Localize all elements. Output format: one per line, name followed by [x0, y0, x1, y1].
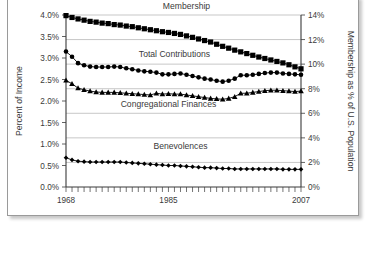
data-point-diamond: [184, 164, 189, 169]
y-axis-right-tick-label: 2%: [308, 158, 320, 167]
data-point-square: [63, 13, 68, 18]
data-point-circle: [238, 73, 243, 78]
data-point-diamond: [244, 167, 249, 172]
data-point-square: [190, 35, 195, 40]
data-point-circle: [220, 79, 225, 84]
y-axis-left-tick-label: 0.5%: [40, 162, 59, 171]
data-point-circle: [142, 69, 147, 74]
data-point-square: [69, 15, 74, 20]
data-point-square: [172, 31, 177, 36]
series-congregational-finances: Congregational Finances: [63, 78, 304, 109]
data-point-square: [118, 22, 123, 27]
data-point-square: [280, 60, 285, 65]
data-point-circle: [244, 73, 249, 78]
data-point-square: [262, 56, 267, 61]
data-point-square: [142, 26, 147, 31]
y-axis-left-tick-label: 1.5%: [40, 119, 59, 128]
data-point-circle: [287, 72, 292, 77]
data-point-diamond: [257, 167, 262, 172]
data-point-circle: [299, 72, 304, 77]
data-point-circle: [154, 70, 159, 75]
data-point-diamond: [190, 164, 195, 169]
data-point-square: [124, 23, 129, 28]
data-point-circle: [202, 76, 207, 81]
data-point-square: [160, 29, 165, 34]
data-point-square: [94, 20, 99, 25]
data-point-diamond: [130, 161, 135, 166]
y-axis-left-title: Percent of Income: [14, 66, 24, 136]
data-point-diamond: [275, 167, 280, 172]
chart-card: 0.0%0.5%1.0%1.5%2.0%2.5%3.0%3.5%4.0%Perc…: [7, 0, 359, 216]
data-point-square: [154, 28, 159, 33]
data-point-diamond: [299, 167, 304, 172]
x-axis-tick-label: 1968: [57, 196, 76, 205]
data-point-circle: [136, 68, 141, 73]
data-point-diamond: [226, 166, 231, 171]
data-point-diamond: [112, 160, 117, 165]
data-point-diamond: [178, 164, 183, 169]
data-point-circle: [124, 66, 129, 71]
data-point-diamond: [154, 162, 159, 167]
data-point-circle: [94, 65, 99, 70]
data-point-square: [286, 62, 291, 67]
data-point-diamond: [214, 166, 219, 171]
data-point-diamond: [196, 165, 201, 170]
data-point-diamond: [250, 167, 255, 172]
data-point-diamond: [208, 165, 213, 170]
data-point-circle: [226, 78, 231, 83]
data-point-diamond: [172, 163, 177, 168]
chart-canvas: 0.0%0.5%1.0%1.5%2.0%2.5%3.0%3.5%4.0%Perc…: [8, 0, 360, 217]
data-point-square: [106, 21, 111, 26]
data-point-diamond: [238, 167, 243, 172]
data-point-circle: [190, 74, 195, 79]
data-point-circle: [178, 71, 183, 76]
data-point-circle: [172, 72, 177, 77]
data-point-circle: [166, 72, 171, 77]
data-point-diamond: [263, 167, 268, 172]
data-point-square: [256, 54, 261, 59]
data-point-square: [274, 59, 279, 64]
data-point-square: [148, 27, 153, 32]
y-axis-left: 0.0%0.5%1.0%1.5%2.0%2.5%3.0%3.5%4.0%Perc…: [14, 11, 66, 192]
data-point-diamond: [287, 167, 292, 172]
y-axis-left-tick-label: 3.0%: [40, 54, 59, 63]
series-total-contributions: Total Contributions: [64, 49, 304, 84]
y-axis-right-tick-label: 0%: [308, 183, 320, 192]
data-point-diamond: [70, 158, 75, 163]
y-axis-right-tick-label: 8%: [308, 85, 320, 94]
data-point-circle: [196, 75, 201, 80]
data-point-circle: [269, 70, 274, 75]
data-point-diamond: [88, 160, 93, 165]
data-point-square: [298, 66, 303, 71]
y-axis-left-tick-label: 2.5%: [40, 76, 59, 85]
data-point-square: [244, 51, 249, 56]
data-point-diamond: [82, 159, 87, 164]
data-point-circle: [100, 65, 105, 70]
data-point-diamond: [106, 160, 111, 165]
data-point-square: [81, 18, 86, 23]
series-label: Total Contributions: [139, 49, 210, 59]
y-axis-left-tick-label: 0.0%: [40, 183, 59, 192]
x-axis: 196819852007: [57, 187, 311, 205]
data-point-square: [250, 53, 255, 58]
data-point-circle: [106, 65, 111, 70]
data-point-diamond: [202, 165, 207, 170]
y-axis-left-tick-label: 1.0%: [40, 140, 59, 149]
data-point-diamond: [293, 167, 298, 172]
data-point-square: [220, 44, 225, 49]
series-membership: Membership: [63, 1, 303, 71]
data-point-square: [130, 24, 135, 29]
data-point-circle: [70, 54, 75, 59]
x-axis-tick-label: 1985: [159, 196, 178, 205]
y-axis-right-tick-label: 12%: [308, 36, 324, 45]
data-point-circle: [148, 69, 153, 74]
data-point-square: [112, 22, 117, 27]
data-point-diamond: [160, 163, 165, 168]
data-point-circle: [76, 61, 81, 66]
data-point-square: [136, 25, 141, 30]
y-axis-right-title: Membership as % of U.S. Population: [346, 31, 356, 172]
data-point-triangle: [69, 81, 75, 86]
data-point-diamond: [64, 155, 69, 160]
data-point-diamond: [94, 160, 99, 165]
data-point-circle: [130, 67, 135, 72]
